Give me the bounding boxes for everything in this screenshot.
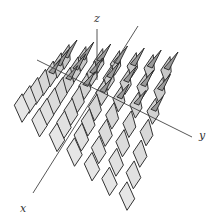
tile-grid [14, 40, 178, 210]
surface-tiles-diagram [0, 0, 221, 224]
diagram-canvas: z y x [0, 0, 221, 224]
y-axis-label: y [199, 129, 205, 142]
x-axis-label: x [20, 202, 26, 215]
z-axis-label: z [94, 12, 100, 25]
